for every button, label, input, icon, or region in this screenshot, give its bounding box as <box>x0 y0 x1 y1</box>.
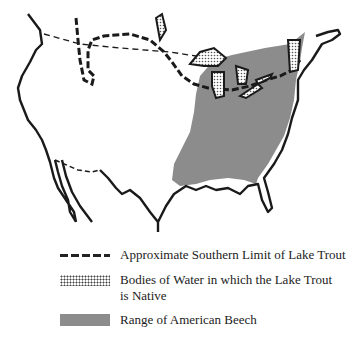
legend-item-beech-range: Range of American Beech <box>60 312 360 328</box>
legend-item-native-waters: Bodies of Water in which the Lake Trout … <box>60 272 340 304</box>
legend-item-southern-limit: Approximate Southern Limit of Lake Trout <box>60 247 360 263</box>
map <box>0 0 362 240</box>
legend-label: Bodies of Water in which the Lake Trout … <box>120 272 340 304</box>
legend-label: Range of American Beech <box>120 312 360 328</box>
beech-range-area <box>172 32 305 186</box>
gray-fill-icon <box>60 314 110 326</box>
stipple-pattern-icon <box>60 275 110 286</box>
lake-trout-limit-thin <box>44 34 196 56</box>
legend-label: Approximate Southern Limit of Lake Trout <box>120 247 360 263</box>
dashed-line-icon <box>60 254 110 257</box>
